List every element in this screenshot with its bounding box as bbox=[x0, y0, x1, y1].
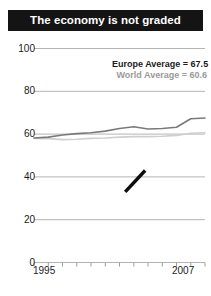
legend-entry-world-average: World Average = 60.6 bbox=[112, 70, 207, 81]
y-axis-tick-20: 20 bbox=[5, 215, 35, 225]
chart-legend: Europe Average = 67.5 World Average = 60… bbox=[112, 59, 207, 81]
y-axis-tick-80: 80 bbox=[5, 86, 35, 96]
x-axis-tick-start: 1995 bbox=[33, 266, 55, 276]
chart-figure: The economy is not graded bbox=[0, 0, 211, 296]
x-axis-tick-end: 2007 bbox=[172, 266, 194, 276]
y-axis-tick-40: 40 bbox=[5, 172, 35, 182]
hand-drawn-slash-annotation bbox=[125, 170, 145, 191]
page-title: The economy is not graded bbox=[30, 15, 181, 27]
y-axis-tick-100: 100 bbox=[5, 44, 35, 54]
y-axis-tick-60: 60 bbox=[5, 129, 35, 139]
plot-area: 100 80 60 40 20 0 1995 2007 Europe Avera… bbox=[0, 34, 211, 296]
y-axis-tick-0: 0 bbox=[5, 258, 35, 268]
chart-title-bar: The economy is not graded bbox=[8, 10, 203, 31]
legend-entry-europe-average: Europe Average = 67.5 bbox=[112, 59, 207, 70]
